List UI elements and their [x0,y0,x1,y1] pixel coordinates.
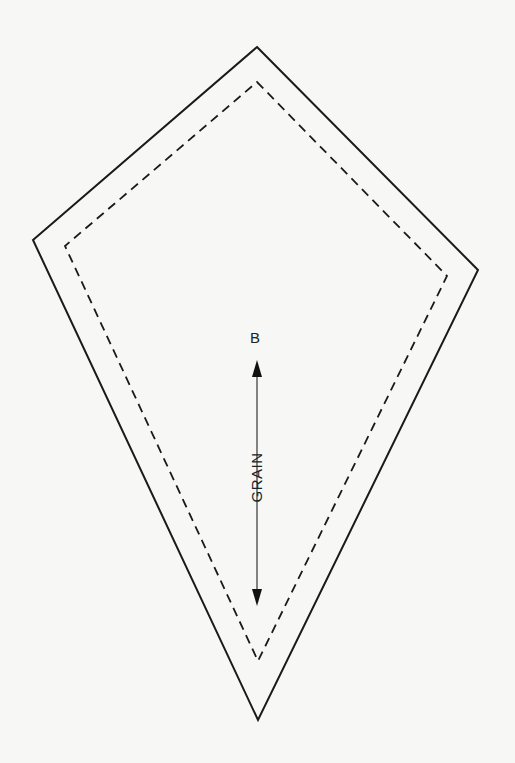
grain-label: GRAIN [249,448,264,508]
outer-cut-line [33,47,478,720]
pattern-diagram [0,0,515,763]
pattern-canvas: B GRAIN [0,0,515,763]
arrow-up-icon [252,360,262,377]
arrow-down-icon [252,589,262,606]
piece-label: B [250,330,260,345]
